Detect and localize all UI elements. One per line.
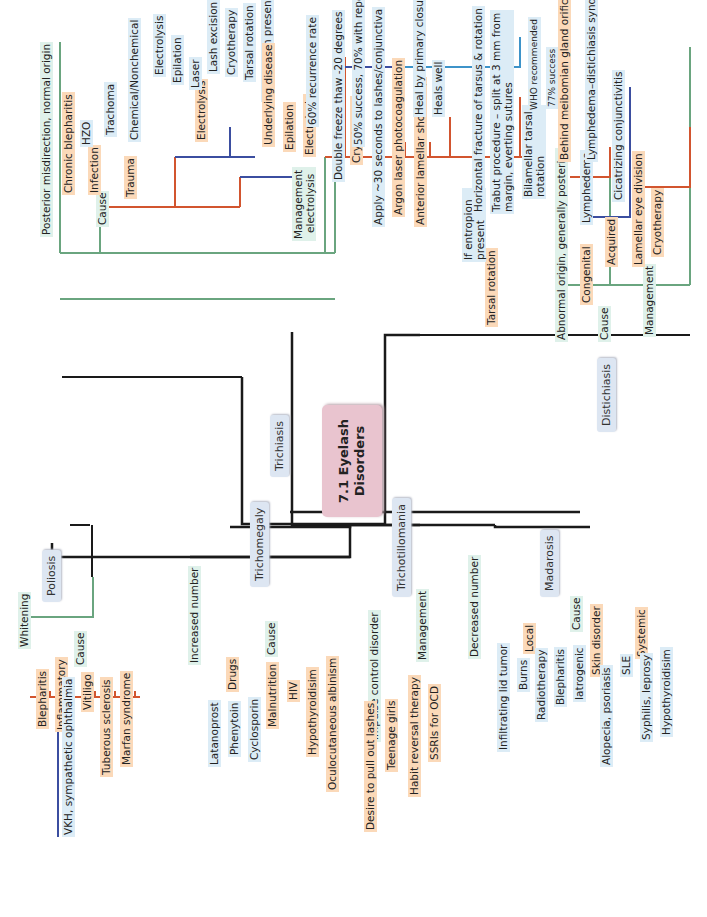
trichomegaly-oca: Oculocutaneous albinism [326,656,339,792]
madarosis-definition: Decreased number [468,555,481,659]
mgmt-cryotherapy-1: Cryotherapy [225,8,238,77]
distichiasis-acquired: Acquired [605,217,618,267]
topic-trichomegaly[interactable]: Trichomegaly [250,502,269,587]
poliosis-cause: Cause [74,631,87,667]
distichiasis-cryotherapy: Cryotherapy [651,188,664,257]
trichomegaly-drug-cyclosporin: Cyclosporin [248,697,261,762]
madarosis-cause: Cause [570,596,583,632]
madarosis-systemic-hypothyroidism: Hypothyroidisim [660,647,673,737]
trichotillomania-desire: Desire to pull out lashes [364,701,377,832]
trichiasis-chronic-blepharitis: Chronic blepharitis [62,92,75,195]
madarosis-infiltrating: Infiltrating lid tumor [497,643,510,752]
poliosis-tuberous: Tuberous sclerosis [100,677,113,777]
trichotillomania-habit: Habit reversal therapy [408,675,421,797]
distichiasis-definition: Abnormal origin, generally posterior [555,148,568,342]
root-topic[interactable]: 7.1 Eyelash Disorders [322,405,382,517]
poliosis-vkh: VKH, sympathetic ophthalmia [62,677,75,837]
distichiasis-cause: Cause [598,306,611,342]
madarosis-systemic-syphilis: Syphilis, leprosy [640,653,653,742]
trichiasis-trachoma: Trachoma [104,82,117,137]
trichomegaly-drugs: Drugs [226,657,239,692]
trichomegaly-definition: Increased number [188,566,201,665]
madarosis-systemic-sle: SLE [620,654,633,677]
distichiasis-cicatrizing: Cicatrizing conjunctivitis [612,70,625,202]
mgmt-epilation-1: Epilation [171,35,184,85]
mgmt-bilamellar: Bilamellar tarsal rotation [522,105,546,199]
trichotillomania-teenage: Teenage girls [385,699,398,772]
mgmt-who: WHO recommended [528,17,541,112]
topic-madarosis[interactable]: Madarosis [540,530,559,597]
root-title-line1: 7.1 Eyelash [336,417,352,505]
topic-poliosis[interactable]: Poliosis [42,550,61,602]
poliosis-marfan: Marfan syndrome [120,671,133,767]
poliosis-definition: Whitening [18,592,31,649]
trichiasis-management: Management electrolysis [292,167,316,241]
poliosis-vitiligo: Vitiligo [81,672,94,712]
topic-trichiasis[interactable]: Trichiasis [270,415,289,477]
distichiasis-management: Management [643,264,656,337]
trichomegaly-cause: Cause [265,621,278,657]
root-title-line2: Disorders [352,417,368,505]
mgmt-heal-primary: Heal by primary closure [413,0,426,117]
distichiasis-lamellar: Lamellar eye division [632,151,645,267]
trichiasis-chemical: Chemical/Nonchemical [128,18,141,142]
mgmt-double-freeze: Double freeze thaw -20 degrees [332,10,345,182]
mgmt-tarsal-rotation: Tarsal rotation [485,248,498,327]
trichiasis-definition: Posterior misdirection, normal origin [40,42,53,237]
madarosis-local-burns: Burns [517,658,530,692]
mgmt-argon: Argon laser photocoagulation [392,58,405,217]
trichomegaly-drug-latanoprost: Latanoprost [208,700,221,767]
mgmt-apply-30: Apply ~30 seconds to lashes/conjunctiva [372,7,385,227]
trichomegaly-drug-phenytoin: Phenytoin [228,701,241,757]
mgmt-underlying-disease: Underlying disease [262,43,275,147]
trichotillomania-management: Management [416,589,429,662]
trichomegaly-hiv: HIV [287,680,300,702]
mgmt-tarsal-rotation-1: Tarsal rotation [243,3,256,82]
trichiasis-cause: Cause [96,191,109,227]
mgmt-lash-excision: Lash excision [207,0,220,74]
mgmt-success-50: 50% success, 70% with repeated [352,0,365,147]
distichiasis-lds: Lymphedema–distichiasis syndrome [585,0,598,162]
mgmt-laser: Laser [189,57,202,90]
mgmt-trabut: Trabut procedure – split at 3 mm from ma… [490,10,514,214]
madarosis-systemic: Systemic [635,607,648,659]
mgmt-epilation: Epilation [283,102,296,152]
madarosis-local-iatrogenic: Iatrogenic [573,645,586,702]
trichiasis-hzo: HZO [80,120,93,147]
mind-map-canvas: 7.1 Eyelash Disorders Trichiasis Posteri… [0,0,707,917]
trichomegaly-malnutrition: Malnutrition [266,662,279,729]
mgmt-electrolysis-1: Electrolysis [153,14,166,77]
trichomegaly-hypothyroidism: Hypothyroidisim [306,667,319,757]
distichiasis-congenital: Congenital [580,244,593,305]
topic-distichiasis[interactable]: Distichiasis [597,358,616,432]
trichotillomania-ssri: SSRIs for OCD [428,684,441,762]
madarosis-alopecia: Alopecia, psoriasis [600,665,613,767]
trichiasis-trauma: Trauma [124,156,137,199]
distichiasis-behind: Behind meibomian gland orifices [558,0,571,162]
madarosis-local-blepharitis: Blepharitis [554,647,567,707]
mgmt-horizontal-fracture: Horizontal fracture of tarsus & rotation [472,6,485,214]
mgmt-heals-well: Heals well [432,60,445,117]
madarosis-local-radiotherapy: Radiotherapy [535,648,548,722]
mgmt-recurrence: 60% recurrence rate [306,15,319,127]
trichiasis-infection: Infection [88,145,101,195]
topic-trichotillomania[interactable]: Trichotillomania [392,498,411,597]
poliosis-blepharitis: Blepharitis [36,669,49,729]
